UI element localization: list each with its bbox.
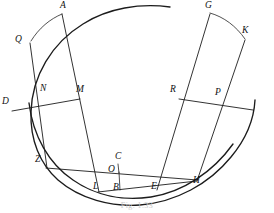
segment-G-K-arc bbox=[210, 13, 245, 39]
segment-C-drop bbox=[118, 164, 119, 173]
point-label-G: G bbox=[205, 1, 212, 11]
segment-Z-C-H bbox=[46, 168, 197, 180]
segment-K-H bbox=[197, 40, 245, 181]
figure-caption: Fig. 1.33 bbox=[0, 201, 274, 210]
point-label-D: D bbox=[2, 97, 9, 107]
segment-D-M bbox=[12, 99, 80, 111]
point-label-O: O bbox=[108, 165, 115, 175]
point-label-E: E bbox=[151, 182, 157, 192]
point-label-M: M bbox=[76, 85, 84, 95]
point-label-R: R bbox=[170, 85, 176, 95]
diagram-canvas bbox=[0, 0, 274, 213]
geometry-figure: A Q D N M Z L B C O E H R P G K Fig. 1.3… bbox=[0, 0, 274, 213]
point-label-B: B bbox=[113, 183, 119, 193]
inner-lower-arc bbox=[29, 103, 233, 198]
segment-R-P bbox=[179, 99, 253, 110]
segment-A-Q-arc bbox=[31, 14, 62, 41]
point-label-Z: Z bbox=[35, 155, 40, 165]
segment-O-B bbox=[119, 172, 120, 190]
segment-A-L bbox=[62, 14, 99, 192]
point-label-L: L bbox=[93, 182, 98, 192]
point-label-C: C bbox=[115, 152, 121, 162]
point-label-A: A bbox=[60, 1, 66, 11]
point-label-K: K bbox=[242, 26, 248, 36]
point-label-H: H bbox=[193, 176, 200, 186]
point-label-N: N bbox=[40, 84, 46, 94]
point-label-P: P bbox=[215, 88, 221, 98]
point-label-Q: Q bbox=[15, 35, 22, 45]
